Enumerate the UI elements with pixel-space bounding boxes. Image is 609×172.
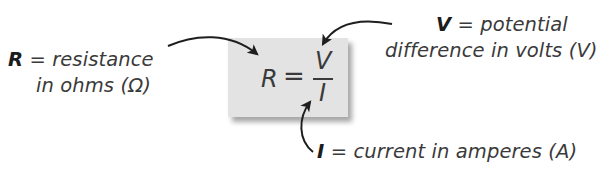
annotation-arrows (0, 0, 609, 172)
arrow-to-r-icon (168, 37, 257, 54)
arrow-to-v-icon (323, 21, 392, 44)
arrow-to-i-icon (301, 102, 313, 152)
